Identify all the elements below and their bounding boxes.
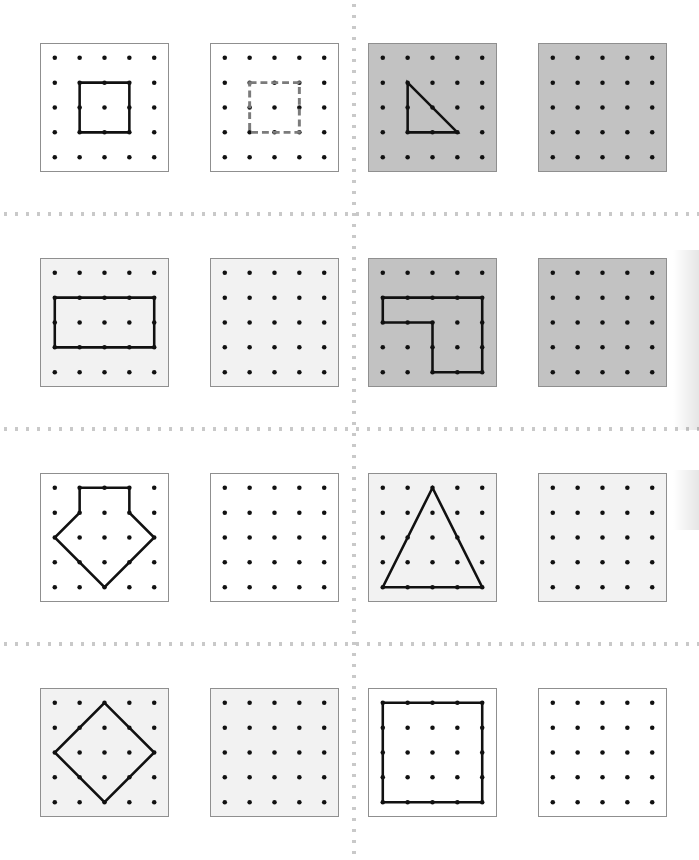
peg-dot[interactable] bbox=[600, 725, 605, 730]
peg-dot[interactable] bbox=[102, 725, 107, 730]
peg-dot[interactable] bbox=[272, 345, 277, 350]
peg-dot[interactable] bbox=[322, 535, 327, 540]
peg-dot[interactable] bbox=[625, 775, 630, 780]
peg-dot[interactable] bbox=[247, 510, 252, 515]
peg-dot[interactable] bbox=[575, 510, 580, 515]
peg-dot[interactable] bbox=[102, 560, 107, 565]
peg-dot[interactable] bbox=[650, 271, 655, 276]
peg-dot[interactable] bbox=[381, 560, 386, 565]
peg-dot[interactable] bbox=[53, 271, 58, 276]
peg-dot[interactable] bbox=[600, 486, 605, 491]
peg-dot[interactable] bbox=[455, 486, 460, 491]
peg-dot[interactable] bbox=[152, 510, 157, 515]
peg-dot[interactable] bbox=[297, 271, 302, 276]
peg-dot[interactable] bbox=[430, 775, 435, 780]
peg-dot[interactable] bbox=[53, 560, 58, 565]
peg-dot[interactable] bbox=[272, 750, 277, 755]
peg-dot[interactable] bbox=[381, 510, 386, 515]
peg-dot[interactable] bbox=[650, 510, 655, 515]
peg-dot[interactable] bbox=[381, 370, 386, 375]
peg-dot[interactable] bbox=[322, 370, 327, 375]
geoboard-panel-r2c3[interactable] bbox=[368, 258, 497, 387]
peg-dot[interactable] bbox=[247, 750, 252, 755]
peg-dot[interactable] bbox=[53, 56, 58, 61]
peg-dot[interactable] bbox=[600, 155, 605, 160]
peg-dot[interactable] bbox=[53, 130, 58, 135]
peg-dot[interactable] bbox=[223, 725, 228, 730]
peg-dot[interactable] bbox=[650, 80, 655, 85]
peg-dot[interactable] bbox=[102, 56, 107, 61]
peg-dot[interactable] bbox=[381, 345, 386, 350]
peg-dot[interactable] bbox=[381, 56, 386, 61]
peg-dot[interactable] bbox=[455, 345, 460, 350]
peg-dot[interactable] bbox=[551, 585, 556, 590]
peg-dot[interactable] bbox=[297, 725, 302, 730]
peg-dot[interactable] bbox=[322, 105, 327, 110]
peg-dot[interactable] bbox=[405, 775, 410, 780]
peg-dot[interactable] bbox=[77, 155, 82, 160]
geoboard-panel-r4c2[interactable] bbox=[210, 688, 339, 817]
peg-dot[interactable] bbox=[650, 800, 655, 805]
peg-dot[interactable] bbox=[53, 725, 58, 730]
peg-dot[interactable] bbox=[625, 560, 630, 565]
peg-dot[interactable] bbox=[102, 155, 107, 160]
peg-dot[interactable] bbox=[77, 800, 82, 805]
peg-dot[interactable] bbox=[127, 370, 132, 375]
geoboard-panel-r2c2[interactable] bbox=[210, 258, 339, 387]
peg-dot[interactable] bbox=[455, 155, 460, 160]
peg-dot[interactable] bbox=[223, 370, 228, 375]
peg-dot[interactable] bbox=[247, 535, 252, 540]
peg-dot[interactable] bbox=[480, 271, 485, 276]
peg-dot[interactable] bbox=[247, 775, 252, 780]
peg-dot[interactable] bbox=[77, 585, 82, 590]
peg-dot[interactable] bbox=[405, 271, 410, 276]
peg-dot[interactable] bbox=[405, 560, 410, 565]
peg-dot[interactable] bbox=[381, 80, 386, 85]
peg-dot[interactable] bbox=[600, 130, 605, 135]
peg-dot[interactable] bbox=[247, 345, 252, 350]
peg-dot[interactable] bbox=[102, 320, 107, 325]
peg-dot[interactable] bbox=[53, 155, 58, 160]
peg-dot[interactable] bbox=[77, 370, 82, 375]
peg-dot[interactable] bbox=[272, 701, 277, 706]
peg-dot[interactable] bbox=[575, 701, 580, 706]
peg-dot[interactable] bbox=[297, 701, 302, 706]
peg-dot[interactable] bbox=[297, 560, 302, 565]
peg-dot[interactable] bbox=[297, 510, 302, 515]
peg-dot[interactable] bbox=[650, 56, 655, 61]
peg-dot[interactable] bbox=[575, 800, 580, 805]
peg-dot[interactable] bbox=[223, 80, 228, 85]
peg-dot[interactable] bbox=[223, 560, 228, 565]
peg-dot[interactable] bbox=[625, 320, 630, 325]
peg-dot[interactable] bbox=[381, 535, 386, 540]
peg-dot[interactable] bbox=[247, 155, 252, 160]
peg-dot[interactable] bbox=[405, 750, 410, 755]
peg-dot[interactable] bbox=[381, 271, 386, 276]
peg-dot[interactable] bbox=[53, 701, 58, 706]
peg-dot[interactable] bbox=[650, 750, 655, 755]
peg-dot[interactable] bbox=[625, 56, 630, 61]
peg-dot[interactable] bbox=[600, 295, 605, 300]
peg-dot[interactable] bbox=[272, 775, 277, 780]
peg-dot[interactable] bbox=[272, 320, 277, 325]
peg-dot[interactable] bbox=[625, 750, 630, 755]
peg-dot[interactable] bbox=[247, 486, 252, 491]
peg-dot[interactable] bbox=[650, 701, 655, 706]
peg-dot[interactable] bbox=[551, 105, 556, 110]
peg-dot[interactable] bbox=[272, 486, 277, 491]
peg-dot[interactable] bbox=[430, 560, 435, 565]
peg-dot[interactable] bbox=[625, 370, 630, 375]
peg-dot[interactable] bbox=[322, 775, 327, 780]
peg-dot[interactable] bbox=[650, 295, 655, 300]
peg-dot[interactable] bbox=[272, 271, 277, 276]
peg-dot[interactable] bbox=[480, 130, 485, 135]
geoboard-panel-r2c1[interactable] bbox=[40, 258, 169, 387]
peg-dot[interactable] bbox=[322, 725, 327, 730]
peg-dot[interactable] bbox=[127, 56, 132, 61]
peg-dot[interactable] bbox=[455, 510, 460, 515]
peg-dot[interactable] bbox=[575, 725, 580, 730]
geoboard-panel-r1c4[interactable] bbox=[538, 43, 667, 172]
peg-dot[interactable] bbox=[575, 775, 580, 780]
peg-dot[interactable] bbox=[625, 486, 630, 491]
peg-dot[interactable] bbox=[575, 535, 580, 540]
